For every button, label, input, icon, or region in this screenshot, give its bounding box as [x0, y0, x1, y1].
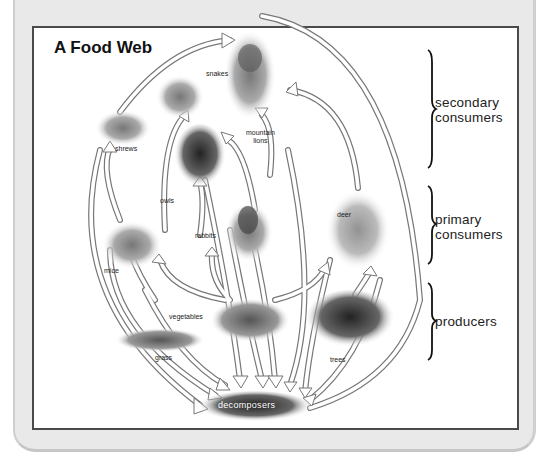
- level-producers-line1: producers: [435, 314, 497, 329]
- level-primary-line1: primary: [435, 212, 503, 227]
- level-secondary-line2: consumers: [435, 110, 503, 125]
- label-trees: trees: [330, 356, 346, 364]
- level-label-secondary: secondary consumers: [435, 95, 503, 125]
- label-vegetables: vegetables: [169, 313, 203, 321]
- label-mountain-lions-line1: mountain: [246, 129, 275, 137]
- mice-image: [102, 221, 162, 269]
- label-mice: mice: [104, 267, 119, 275]
- level-primary-line2: consumers: [435, 227, 503, 242]
- label-grass: grass: [155, 354, 172, 362]
- level-label-producers: producers: [435, 314, 497, 329]
- level-label-primary: primary consumers: [435, 212, 503, 242]
- label-deer: deer: [337, 211, 351, 219]
- level-secondary-line1: secondary: [435, 95, 503, 110]
- grass-image: [115, 328, 205, 352]
- label-rabbits: rabbits: [195, 232, 216, 240]
- mountain-lion-image: [224, 30, 276, 120]
- label-mountain-lions-line2: lions: [246, 137, 275, 145]
- label-snakes: snakes: [206, 70, 228, 78]
- shrew-image: [95, 110, 151, 146]
- vegetables-image: [210, 298, 290, 342]
- label-decomposers: decomposers: [218, 400, 275, 410]
- trees-image: [305, 290, 395, 350]
- deer-image: [326, 190, 390, 270]
- owl-image: [174, 124, 226, 190]
- label-shrews: shrews: [115, 145, 137, 153]
- snake-image: [156, 75, 204, 119]
- label-owls: owls: [160, 197, 174, 205]
- label-mountain-lions: mountain lions: [246, 129, 275, 145]
